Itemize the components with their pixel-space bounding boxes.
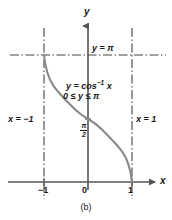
- x-tick-label-zero: 0: [82, 186, 87, 195]
- figure-caption: (b): [0, 202, 172, 212]
- equation-label: y = cos−1 x: [66, 80, 112, 91]
- domain-label: 0 ≤ y ≤ π: [63, 92, 99, 101]
- pi-over-two-numerator: π: [80, 122, 88, 129]
- x-tick-label-neg-one: −1: [38, 186, 48, 195]
- equation-rhs: x: [104, 81, 112, 91]
- y-equals-pi-label: y = π: [92, 44, 114, 53]
- arccos-figure: y x y = π y = cos−1 x 0 ≤ y ≤ π x = −1 x…: [0, 0, 172, 220]
- pi-over-two-denominator: 2: [80, 131, 88, 138]
- x-tick-label-one: 1: [128, 186, 133, 195]
- y-axis-label: y: [84, 7, 90, 17]
- equation-lhs: y = cos: [66, 81, 97, 91]
- x-axis-label: x: [160, 176, 166, 186]
- x-equals-one-label: x = 1: [136, 115, 156, 124]
- pi-over-two-label: π 2: [80, 122, 88, 138]
- x-equals-neg-one-label: x = −1: [8, 115, 34, 124]
